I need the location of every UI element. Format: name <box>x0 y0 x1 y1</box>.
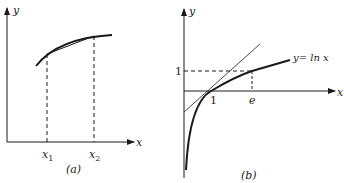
panel-b: y x y= ln x 1 1 e (b) <box>175 5 344 182</box>
y-tick-1: 1 <box>175 65 182 78</box>
figure: y x x1 x2 (a) y x y= ln x 1 1 e (b) <box>0 0 344 183</box>
caption-a: (a) <box>66 163 81 176</box>
secant-chord <box>47 36 94 54</box>
ln-curve <box>186 60 290 170</box>
panel-a: y x x1 x2 (a) <box>7 4 143 176</box>
y-axis-label: y <box>12 4 20 17</box>
x-tick-e: e <box>249 94 256 107</box>
x-axis-label: x <box>136 136 143 149</box>
caption-b: (b) <box>241 169 257 182</box>
x1-label: x1 <box>42 148 53 163</box>
x-tick-1: 1 <box>210 94 217 107</box>
x2-label: x2 <box>89 148 100 163</box>
x-axis-label: x <box>337 86 344 99</box>
curve-label: y= ln x <box>292 52 329 63</box>
y-axis-label: y <box>188 5 196 18</box>
